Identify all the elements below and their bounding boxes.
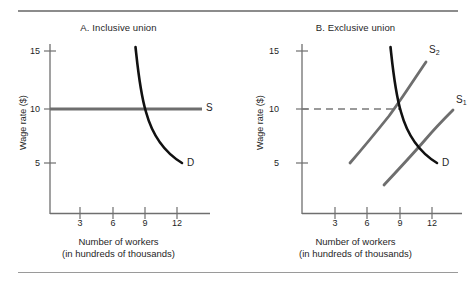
panel-a-x-axis-label: Number of workers (in hundreds of thousa… xyxy=(0,236,237,260)
figure-container: A. Inclusive union Wage rate ($) 15 10 5… xyxy=(0,0,475,284)
panel-b-supply2-subscript: 2 xyxy=(436,49,440,56)
panel-b-supply1-label: S1 xyxy=(456,94,467,105)
panel-b-x-axis-label: Number of workers (in hundreds of thousa… xyxy=(237,236,474,260)
panel-b-x-axis-label-line1: Number of workers xyxy=(237,236,474,248)
panel-b-demand-label: D xyxy=(442,157,449,168)
panel-b-supply2-curve xyxy=(350,62,426,163)
panel-a-svg xyxy=(0,0,237,272)
panel-b-supply1-subscript: 1 xyxy=(463,99,467,106)
panel-a-x-axis-label-line1: Number of workers xyxy=(0,236,237,248)
panel-a-demand-label: D xyxy=(187,157,194,168)
panel-a-x-axis-label-line2: (in hundreds of thousands) xyxy=(0,248,237,260)
panel-a-supply-label: S xyxy=(206,102,213,113)
panel-inclusive-union: A. Inclusive union Wage rate ($) 15 10 5… xyxy=(0,0,237,272)
panel-b-svg xyxy=(237,0,474,272)
panel-exclusive-union: B. Exclusive union Wage rate ($) 15 10 5… xyxy=(237,0,474,272)
panel-a-plot: Wage rate ($) 15 10 5 3 6 9 12 xyxy=(0,0,237,272)
panel-b-supply1-letter: S xyxy=(456,94,463,105)
panel-b-plot: Wage rate ($) 15 10 5 3 6 9 12 xyxy=(237,0,474,272)
panel-a-demand-curve xyxy=(136,47,183,163)
panel-b-supply2-letter: S xyxy=(429,44,436,55)
panel-b-supply2-label: S2 xyxy=(429,44,440,55)
bottom-rule xyxy=(18,272,458,273)
panel-b-x-axis-label-line2: (in hundreds of thousands) xyxy=(237,248,474,260)
